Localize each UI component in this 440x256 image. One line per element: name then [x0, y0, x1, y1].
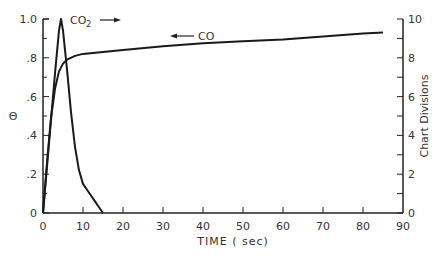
x-tick-label: 30: [156, 220, 170, 233]
y-tick-label-left: 0: [30, 207, 37, 220]
x-tick-label: 20: [116, 220, 130, 233]
y-tick-label-right: 0: [408, 207, 415, 220]
co-arrowhead-icon: [170, 34, 177, 39]
y-tick-label-left: 1.0: [20, 13, 38, 26]
y-tick-label-right: 6: [408, 91, 415, 104]
y-tick-label-left: .8: [27, 52, 38, 65]
x-axis-label: TIME ( sec): [196, 235, 269, 248]
co2-arrowhead-icon: [114, 18, 121, 23]
y-axis-label-left: Θ: [9, 110, 18, 123]
y-tick-label-right: 8: [408, 52, 415, 65]
x-tick-label: 60: [276, 220, 290, 233]
x-tick-label: 50: [236, 220, 250, 233]
co-annotation: CO: [198, 30, 215, 43]
x-tick-label: 10: [76, 220, 90, 233]
y-axis-label-right: Chart Divisions: [418, 74, 431, 157]
y-tick-label-left: .6: [27, 91, 38, 104]
y-tick-label-left: .2: [27, 168, 38, 181]
x-tick-label: 40: [196, 220, 210, 233]
y-tick-label-left: .4: [27, 129, 38, 142]
x-tick-label: 70: [316, 220, 330, 233]
x-tick-label: 0: [40, 220, 47, 233]
y-tick-label-right: 10: [408, 13, 422, 26]
co2-annotation: CO2: [70, 14, 91, 29]
y-tick-label-right: 4: [408, 129, 415, 142]
x-tick-label: 80: [356, 220, 370, 233]
y-tick-label-right: 2: [408, 168, 415, 181]
series-co: [43, 33, 383, 213]
chart: 01020304050607080900.2.4.6.81.00246810TI…: [0, 0, 440, 256]
x-tick-label: 90: [396, 220, 410, 233]
